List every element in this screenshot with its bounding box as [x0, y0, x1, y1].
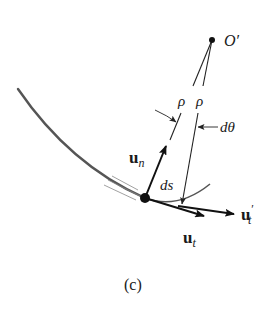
curvilinear-motion-diagram: O′ ρ ρ dθ ds un ut u′t (c): [0, 0, 277, 310]
figure-caption: (c): [124, 276, 142, 294]
tangent-vector-subscript: t: [192, 236, 196, 250]
tangent-vector-label: ut: [183, 228, 196, 250]
radius-label-left: ρ: [177, 93, 185, 109]
center-point-label: O′: [224, 32, 240, 49]
radius-line-right-upper: [203, 40, 212, 86]
normal-vector-label: un: [129, 148, 144, 170]
normal-vector-subscript: n: [138, 156, 144, 170]
arc-length-label: ds: [160, 177, 174, 193]
radius-line-left-upper: [193, 40, 212, 86]
tangent-vector-base: u: [183, 228, 192, 247]
path-curve: [18, 89, 145, 198]
particle-point: [140, 193, 150, 203]
angle-arrow-left: [155, 110, 176, 122]
radius-line-right-lower: [182, 113, 198, 204]
radius-line-left-lower: [170, 113, 181, 140]
center-point-dot: [209, 37, 215, 43]
tangent-vector-prime-label: u′t: [241, 202, 253, 227]
angle-label: dθ: [220, 119, 236, 135]
curve-continuation: [145, 184, 210, 202]
radius-label-right: ρ: [195, 93, 203, 109]
normal-vector-base: u: [129, 148, 138, 167]
